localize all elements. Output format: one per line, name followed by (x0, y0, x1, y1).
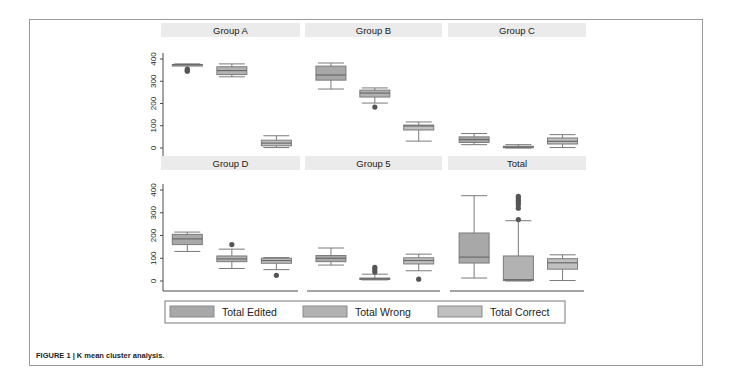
y-tick-label: 400 (149, 183, 158, 197)
box-total-edited (459, 134, 489, 145)
box-total-edited (459, 196, 489, 278)
outlier-point (516, 194, 521, 199)
box-total-correct (261, 258, 291, 278)
outlier-point (416, 277, 421, 282)
panel-title: Group C (499, 25, 535, 36)
panel-title: Group B (356, 25, 391, 36)
y-tick-label: 300 (149, 206, 158, 220)
panel-title: Total (507, 158, 527, 169)
y-tick-label: 200 (149, 96, 158, 110)
box-total-edited (172, 64, 202, 74)
box-total-correct (404, 254, 434, 282)
panel-title: Group 5 (356, 158, 390, 169)
outlier-point (274, 273, 279, 278)
figure-caption: FIGURE 1 | K mean cluster analysis. (36, 351, 164, 360)
y-tick-label: 300 (149, 74, 158, 88)
box-total-edited (316, 63, 346, 89)
box-total-wrong (360, 265, 390, 280)
box-total-wrong (503, 145, 533, 148)
y-tick-label: 400 (149, 52, 158, 66)
legend-item-total-correct: Total Correct (438, 306, 550, 318)
panel-group-d: Group D0100200300400 (149, 156, 300, 291)
y-tick-label: 200 (149, 228, 158, 242)
legend-item-total-edited: Total Edited (170, 306, 277, 318)
outlier-point (185, 66, 190, 71)
outlier-point (229, 242, 234, 247)
outlier-point (516, 217, 521, 222)
box-total-wrong (503, 194, 533, 281)
panel-group-a: Group A0100200300400 (149, 23, 300, 157)
outlier-point (372, 265, 377, 270)
svg-text:Total Edited: Total Edited (222, 306, 277, 318)
panel-group-c: Group C (448, 23, 586, 157)
box-total-wrong (360, 88, 390, 110)
box-total-edited (316, 248, 346, 265)
y-tick-label: 0 (149, 278, 158, 283)
y-tick-label: 0 (149, 145, 158, 150)
legend-item-total-wrong: Total Wrong (303, 306, 411, 318)
panel-total: Total (448, 156, 586, 291)
box-total-correct (548, 135, 578, 148)
box-total-edited (172, 232, 202, 251)
box-total-wrong (217, 242, 247, 268)
boxplot-chart: Group A0100200300400Group BGroup CGroup … (0, 0, 729, 385)
legend: Total EditedTotal WrongTotal Correct (165, 301, 565, 323)
box-total-correct (404, 122, 434, 141)
y-tick-label: 100 (149, 119, 158, 133)
panel-group-b: Group B (305, 23, 442, 157)
svg-text:Total Wrong: Total Wrong (355, 306, 411, 318)
box-total-correct (261, 136, 291, 148)
outlier-point (372, 104, 377, 109)
box-total-wrong (217, 64, 247, 77)
panel-title: Group D (213, 158, 249, 169)
box-total-correct (548, 255, 578, 281)
svg-text:Total Correct: Total Correct (490, 306, 550, 318)
panel-title: Group A (213, 25, 249, 36)
panel-group-5: Group 5 (305, 156, 442, 291)
y-tick-label: 100 (149, 251, 158, 265)
